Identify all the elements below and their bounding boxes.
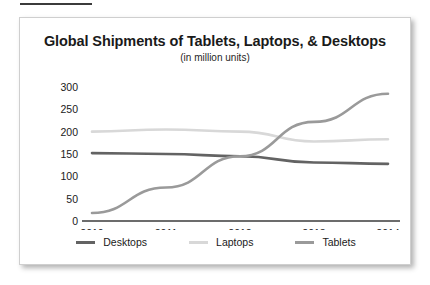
series-lines xyxy=(92,94,388,213)
line-chart-svg: 050100150200250300 20102011201220132014 xyxy=(20,75,412,230)
y-tick-label: 200 xyxy=(60,126,78,138)
legend-swatch-laptops xyxy=(189,241,208,244)
y-tick-label: 250 xyxy=(60,103,78,115)
series-line-laptops xyxy=(92,129,388,141)
chart-panel: Global Shipments of Tablets, Laptops, & … xyxy=(19,17,411,265)
x-tick-label: 2011 xyxy=(155,227,178,230)
x-tick-label: 2013 xyxy=(302,227,326,230)
x-axis-tick-labels: 20102011201220132014 xyxy=(80,227,400,230)
y-axis-tick-labels: 050100150200250300 xyxy=(60,81,78,227)
x-tick-label: 2010 xyxy=(80,227,104,230)
legend-label: Tablets xyxy=(322,236,355,248)
x-tick-label: 2014 xyxy=(376,227,400,230)
legend-label: Laptops xyxy=(216,236,253,248)
y-tick-label: 150 xyxy=(60,148,78,160)
legend-item-laptops[interactable]: Laptops xyxy=(189,236,253,248)
legend-item-desktops[interactable]: Desktops xyxy=(76,236,147,248)
chart-title: Global Shipments of Tablets, Laptops, & … xyxy=(20,33,410,49)
chart-legend: DesktopsLaptopsTablets xyxy=(20,236,412,248)
legend-swatch-tablets xyxy=(295,241,314,244)
series-line-desktops xyxy=(92,153,388,164)
legend-swatch-desktops xyxy=(76,241,95,244)
x-tick-label: 2012 xyxy=(228,227,252,230)
y-tick-label: 100 xyxy=(60,170,78,182)
y-tick-label: 0 xyxy=(72,215,78,227)
top-divider-rule xyxy=(20,3,92,5)
y-tick-label: 300 xyxy=(60,81,78,93)
legend-item-tablets[interactable]: Tablets xyxy=(295,236,355,248)
chart-subtitle: (in million units) xyxy=(20,52,410,63)
plot-area: 050100150200250300 20102011201220132014 xyxy=(20,75,412,230)
legend-label: Desktops xyxy=(103,236,147,248)
y-tick-label: 50 xyxy=(66,193,78,205)
